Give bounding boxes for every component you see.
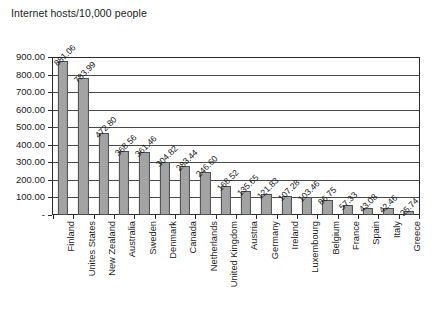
x-axis-tick-mark <box>256 215 257 219</box>
x-axis-category-label: Greece <box>412 221 422 252</box>
bar[interactable] <box>99 133 109 215</box>
x-axis-tick-mark <box>399 215 400 219</box>
y-axis-tick-label: 800.00 <box>0 70 52 80</box>
bar-slot <box>175 58 195 215</box>
x-axis-tick-mark <box>277 215 278 219</box>
y-axis-tick-label: 900.00 <box>0 52 52 62</box>
bar[interactable] <box>78 78 88 215</box>
bars-layer: 881.06783.99472.80368.56361.46304.82283.… <box>53 58 419 215</box>
x-axis-tick-mark <box>378 215 379 219</box>
x-axis-tick-mark <box>317 215 318 219</box>
bar-chart: Internet hosts/10,000 people 900.00800.0… <box>0 0 436 317</box>
x-axis-category-label: Denmark <box>168 221 178 259</box>
y-axis-tick-label: 600.00 <box>0 105 52 115</box>
x-axis-category-label: Austria <box>249 221 259 250</box>
x-axis-tick-mark <box>419 215 420 219</box>
bar-slot <box>378 58 398 215</box>
x-axis-category-label: Spain <box>371 221 381 245</box>
x-axis-tick-mark <box>175 215 176 219</box>
bar-slot <box>399 58 419 215</box>
x-axis-category-label: Italy <box>392 221 402 238</box>
bar-slot <box>53 58 73 215</box>
x-axis-category-label: Germany <box>270 221 280 259</box>
x-axis-tick-mark <box>358 215 359 219</box>
bar[interactable] <box>119 151 129 215</box>
x-axis-ticks <box>52 215 420 220</box>
x-axis-tick-mark <box>195 215 196 219</box>
x-axis-category-label: Australia <box>127 221 137 257</box>
x-axis-labels: FinlandUnites StatesNew ZealandAustralia… <box>52 221 420 317</box>
x-axis-tick-mark <box>73 215 74 219</box>
x-axis-tick-mark <box>338 215 339 219</box>
x-axis-tick-mark <box>236 215 237 219</box>
x-axis-category-label: Netherlands <box>209 221 219 271</box>
bar[interactable] <box>58 61 68 215</box>
y-axis-tick-label: 700.00 <box>0 87 52 97</box>
x-axis-tick-mark <box>94 215 95 219</box>
x-axis-category-label: Belgium <box>331 221 341 255</box>
bar[interactable] <box>180 166 190 215</box>
x-axis-category-label: New Zealand <box>107 221 117 276</box>
bar[interactable] <box>160 162 170 215</box>
bar-slot <box>358 58 378 215</box>
y-axis-tick-label: 500.00 <box>0 122 52 132</box>
x-axis-tick-mark <box>297 215 298 219</box>
bar-slot <box>216 58 236 215</box>
x-axis-category-label: Sweden <box>148 221 158 255</box>
bar-slot <box>155 58 175 215</box>
x-axis-tick-mark <box>53 215 54 219</box>
x-axis-tick-mark <box>216 215 217 219</box>
x-axis-category-label: United Kingdom <box>229 221 239 287</box>
x-axis-category-label: France <box>351 221 361 250</box>
x-axis-tick-mark <box>114 215 115 219</box>
bar[interactable] <box>139 152 149 215</box>
y-axis-tick-label: 300.00 <box>0 157 52 167</box>
y-axis-tick-label: 100.00 <box>0 192 52 202</box>
x-axis-category-label: Canada <box>188 221 198 254</box>
y-axis-tick-label: - <box>0 210 52 220</box>
x-axis-tick-mark <box>134 215 135 219</box>
y-axis: 900.00800.00700.00600.00500.00400.00300.… <box>0 57 52 216</box>
x-axis-category-label: Unites States <box>87 221 97 276</box>
y-axis-tick-label: 200.00 <box>0 175 52 185</box>
x-axis-tick-mark <box>155 215 156 219</box>
bar-slot <box>195 58 215 215</box>
x-axis-category-label: Finland <box>66 221 76 252</box>
chart-title: Internet hosts/10,000 people <box>11 7 147 20</box>
x-axis-category-label: Luxembourg <box>310 221 320 273</box>
x-axis-category-label: Ireland <box>290 221 300 249</box>
y-axis-tick-label: 400.00 <box>0 140 52 150</box>
bar[interactable] <box>200 172 210 215</box>
